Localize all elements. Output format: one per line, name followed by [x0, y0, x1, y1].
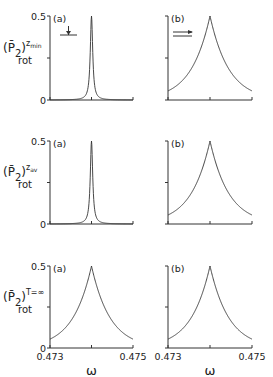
data-curve [168, 141, 252, 215]
panel-label: (a) [53, 263, 66, 274]
axes [50, 141, 133, 224]
panel-2b: (b) [165, 138, 252, 224]
panel-1b: (b) [165, 13, 252, 100]
down-arrow-icon [60, 26, 77, 35]
x-tick-label: 0.475 [119, 351, 146, 362]
panel-3a: 00.50.4730.475ω(a)(P̄2)T=∞rot [3, 261, 147, 377]
double-right-arrow-icon [173, 30, 193, 36]
data-curve [168, 266, 252, 339]
data-curve [50, 266, 133, 339]
y-tick-label: 0 [40, 219, 46, 230]
panel-2a: 00.5(a)(P̄2)zavrot [3, 136, 133, 230]
figure: 00.5(a)(P̄2)zminrot(b)00.5(a)(P̄2)zavrot… [0, 0, 273, 377]
x-axis-label: ω [86, 363, 97, 377]
axes [168, 266, 252, 348]
panel-label: (b) [171, 138, 184, 149]
data-curve [168, 16, 252, 91]
panel-label: (b) [171, 13, 184, 24]
panel-label: (a) [53, 138, 66, 149]
y-tick-label: 0 [40, 95, 46, 106]
panel-3b: 0.4730.475ω(b) [154, 263, 265, 377]
y-tick-label: 0.5 [31, 261, 46, 272]
panel-label: (b) [171, 263, 184, 274]
axes [168, 141, 252, 224]
data-curve [50, 141, 133, 224]
axes [50, 16, 133, 100]
x-tick-label: 0.475 [238, 351, 265, 362]
x-axis-label: ω [205, 363, 216, 377]
axes [168, 16, 252, 100]
y-axis-label-sub: rot [18, 179, 32, 190]
y-axis-label-sub: rot [18, 304, 32, 315]
x-tick-label: 0.473 [36, 351, 63, 362]
y-tick-label: 0.5 [31, 136, 46, 147]
panel-1a: 00.5(a)(P̄2)zminrot [3, 11, 133, 106]
panel-label: (a) [53, 13, 66, 24]
x-tick-label: 0.473 [154, 351, 181, 362]
data-curve [50, 16, 133, 100]
y-tick-label: 0.5 [31, 11, 46, 22]
y-axis-label-sub: rot [18, 55, 32, 66]
axes [50, 266, 133, 348]
